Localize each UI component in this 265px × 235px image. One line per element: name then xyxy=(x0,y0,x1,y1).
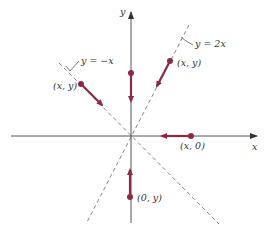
point-label-right: (x, y) xyxy=(177,57,201,68)
vector-on-x-axis xyxy=(162,133,194,139)
coordinate-diagram: x y y = −x y = 2x (x, y) (x, y) (x, 0) (… xyxy=(0,0,265,235)
y-axis-label: y xyxy=(119,6,126,17)
vector-on-neg-y-axis xyxy=(127,170,133,200)
label-y-neg-x: y = −x xyxy=(80,55,114,66)
vector-on-neg-x-line xyxy=(78,81,102,105)
leader-y-neg-x xyxy=(66,61,79,71)
leader-y-2x xyxy=(181,37,193,45)
x-axis-label: x xyxy=(252,141,258,152)
label-y-2x: y = 2x xyxy=(194,38,226,49)
point-label-left: (x, y) xyxy=(53,80,77,91)
point-label-y-axis: (0, y) xyxy=(137,192,162,203)
vector-on-pos-y-axis xyxy=(128,70,134,101)
vector-on-2x-line xyxy=(157,58,173,86)
point-label-x-axis: (x, 0) xyxy=(180,140,205,151)
